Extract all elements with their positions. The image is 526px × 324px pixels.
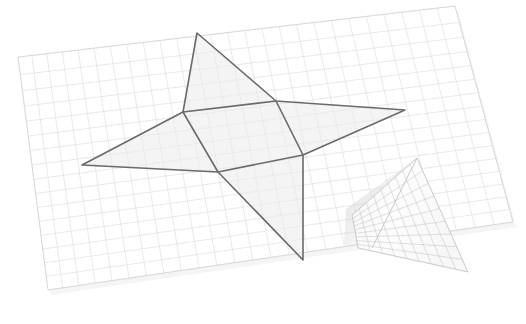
scene-root [0,0,526,324]
scene-canvas[interactable] [0,0,526,324]
